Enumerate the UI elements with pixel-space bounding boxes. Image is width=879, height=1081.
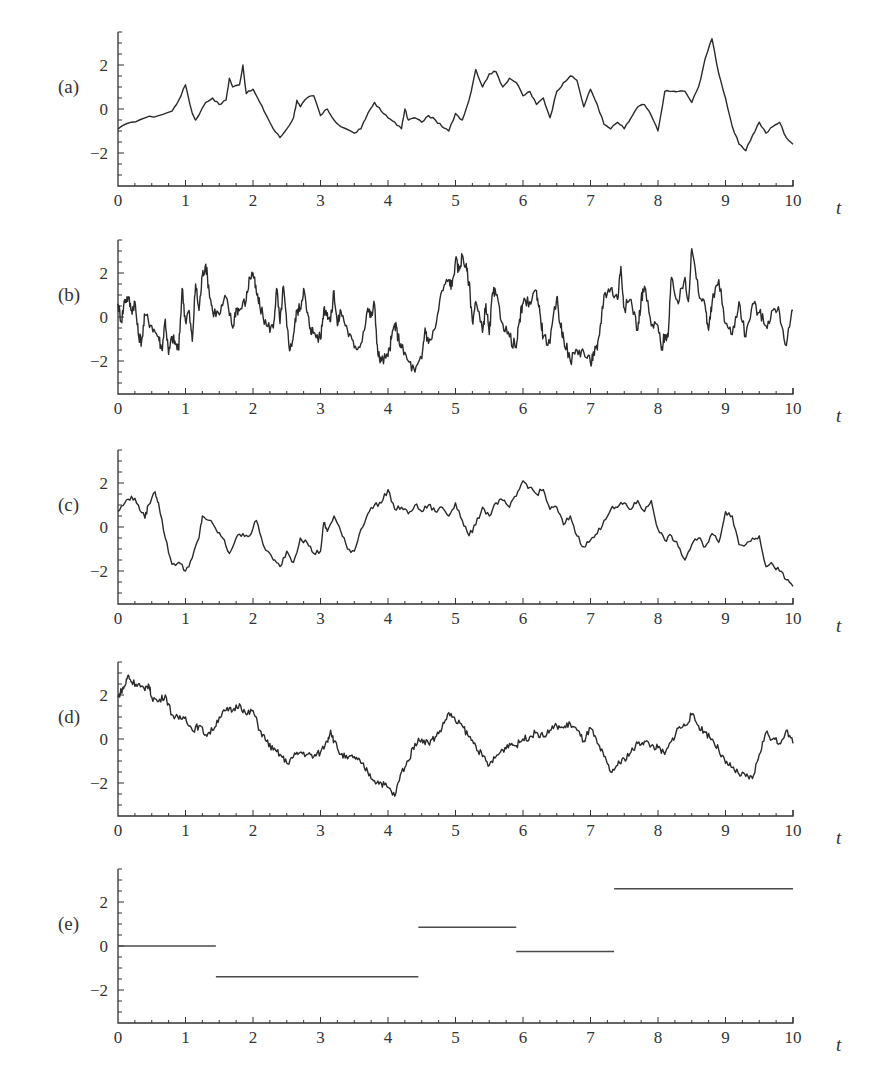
x-tick-label: 8 (654, 191, 663, 210)
x-tick-label: 9 (721, 191, 730, 210)
x-tick-label: 1 (181, 1028, 190, 1047)
x-tick-label: 4 (384, 609, 393, 628)
y-tick-label: 0 (100, 308, 109, 327)
x-tick-label: 3 (316, 821, 325, 840)
axes (118, 869, 793, 1023)
axes (118, 32, 793, 186)
x-tick-label: 6 (519, 191, 528, 210)
y-tick-label: −2 (90, 352, 108, 371)
axes (118, 662, 793, 816)
y-tick-label: −2 (90, 562, 108, 581)
y-tick-label: −2 (90, 981, 108, 1000)
x-tick-label: 8 (654, 609, 663, 628)
x-axis-title: t (836, 405, 842, 426)
x-tick-label: 1 (181, 399, 190, 418)
panel-label: (a) (58, 76, 79, 98)
x-tick-label: 8 (654, 1028, 663, 1047)
y-tick-label: −2 (90, 774, 108, 793)
x-axis-title: t (836, 615, 842, 636)
x-tick-label: 10 (785, 821, 802, 840)
panel-label: (d) (58, 706, 80, 728)
sample-path-line (118, 249, 793, 372)
x-tick-label: 1 (181, 191, 190, 210)
x-tick-label: 0 (114, 821, 123, 840)
x-tick-label: 1 (181, 821, 190, 840)
x-axis-title: t (836, 1034, 842, 1055)
x-tick-label: 5 (451, 1028, 460, 1047)
y-tick-label: 2 (100, 893, 109, 912)
x-tick-label: 7 (586, 399, 595, 418)
x-tick-label: 0 (114, 1028, 123, 1047)
x-tick-label: 3 (316, 1028, 325, 1047)
x-tick-label: 3 (316, 399, 325, 418)
x-tick-label: 3 (316, 609, 325, 628)
y-tick-label: 2 (100, 686, 109, 705)
sample-path-line (118, 481, 793, 587)
panel-c: (c)20−2012345678910t (58, 450, 842, 636)
y-tick-label: 0 (100, 730, 109, 749)
x-tick-label: 6 (519, 821, 528, 840)
x-tick-label: 5 (451, 191, 460, 210)
x-tick-label: 10 (785, 1028, 802, 1047)
x-tick-label: 5 (451, 399, 460, 418)
x-tick-label: 8 (654, 821, 663, 840)
x-tick-label: 9 (721, 609, 730, 628)
panel-label: (c) (58, 494, 79, 516)
x-tick-label: 2 (249, 399, 258, 418)
x-tick-label: 9 (721, 1028, 730, 1047)
x-tick-label: 7 (586, 821, 595, 840)
y-tick-label: 2 (100, 264, 109, 283)
x-tick-label: 4 (384, 821, 393, 840)
x-tick-label: 10 (785, 399, 802, 418)
x-tick-label: 2 (249, 1028, 258, 1047)
x-tick-label: 6 (519, 399, 528, 418)
x-tick-label: 6 (519, 1028, 528, 1047)
sample-path-line (118, 675, 793, 796)
panel-e: (e)20−2012345678910t (58, 869, 842, 1055)
x-tick-label: 5 (451, 609, 460, 628)
panel-label: (b) (58, 284, 80, 306)
panel-a: (a)20−2012345678910t (58, 32, 842, 218)
x-tick-label: 9 (721, 821, 730, 840)
y-tick-label: 2 (100, 56, 109, 75)
y-tick-label: −2 (90, 144, 108, 163)
y-tick-label: 0 (100, 518, 109, 537)
x-tick-label: 5 (451, 821, 460, 840)
figure-canvas: (a)20−2012345678910t(b)20−2012345678910t… (0, 0, 879, 1081)
x-tick-label: 7 (586, 609, 595, 628)
y-tick-label: 0 (100, 937, 109, 956)
stochastic-process-figure: (a)20−2012345678910t(b)20−2012345678910t… (0, 0, 879, 1081)
x-tick-label: 8 (654, 399, 663, 418)
x-tick-label: 2 (249, 191, 258, 210)
x-tick-label: 4 (384, 191, 393, 210)
x-tick-label: 3 (316, 191, 325, 210)
y-tick-label: 2 (100, 474, 109, 493)
x-tick-label: 2 (249, 609, 258, 628)
sample-path-line (118, 39, 793, 151)
x-tick-label: 4 (384, 1028, 393, 1047)
x-tick-label: 2 (249, 821, 258, 840)
x-tick-label: 9 (721, 399, 730, 418)
x-tick-label: 7 (586, 191, 595, 210)
x-tick-label: 0 (114, 609, 123, 628)
panel-d: (d)20−2012345678910t (58, 662, 842, 848)
x-axis-title: t (836, 197, 842, 218)
x-tick-label: 0 (114, 399, 123, 418)
panel-label: (e) (58, 913, 79, 935)
panel-b: (b)20−2012345678910t (58, 240, 842, 426)
x-tick-label: 0 (114, 191, 123, 210)
x-tick-label: 6 (519, 609, 528, 628)
x-tick-label: 4 (384, 399, 393, 418)
y-tick-label: 0 (100, 100, 109, 119)
x-tick-label: 1 (181, 609, 190, 628)
axes (118, 450, 793, 604)
x-axis-title: t (836, 827, 842, 848)
x-tick-label: 10 (785, 191, 802, 210)
x-tick-label: 10 (785, 609, 802, 628)
x-tick-label: 7 (586, 1028, 595, 1047)
